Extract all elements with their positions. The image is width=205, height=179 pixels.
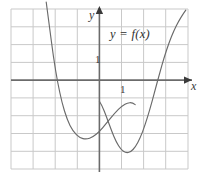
y-axis-tick-label-1: 1 (95, 54, 101, 65)
function-graph-figure: y x 1 1 y = f(x) (0, 0, 205, 179)
graph-canvas (0, 0, 205, 179)
x-axis-tick-label-1: 1 (120, 84, 126, 95)
x-axis-label: x (191, 80, 196, 92)
y-axis (96, 6, 103, 172)
y-axis-arrowhead (96, 6, 103, 14)
curve-equation-label: y = f(x) (110, 28, 150, 41)
y-axis-label: y (89, 9, 94, 21)
x-axis (11, 76, 192, 83)
